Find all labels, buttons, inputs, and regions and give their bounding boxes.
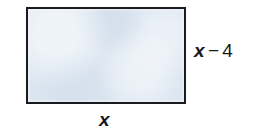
width-dimension-label: x <box>99 110 110 129</box>
height-label-operator: − <box>205 40 222 61</box>
height-label-variable: x <box>194 40 205 61</box>
figure-canvas: x−4 x <box>0 0 253 140</box>
height-dimension-label: x−4 <box>194 41 233 60</box>
rectangle-shape <box>26 7 186 104</box>
width-label-variable: x <box>99 109 110 130</box>
height-label-number: 4 <box>222 40 233 61</box>
